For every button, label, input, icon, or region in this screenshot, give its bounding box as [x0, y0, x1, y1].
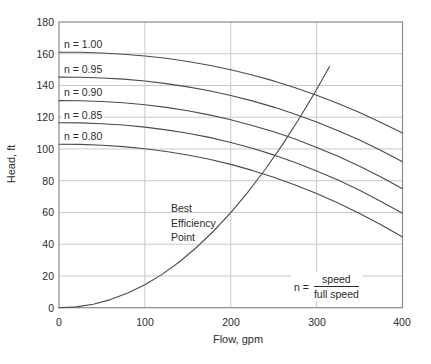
- x-tick-label: 400: [382, 315, 422, 329]
- bep-label-line-3: Point: [171, 230, 216, 245]
- annotation-fraction: speed full speed: [314, 273, 359, 300]
- y-tick-label: 160: [20, 47, 54, 61]
- x-tick-label: 300: [297, 315, 337, 329]
- y-tick-label: 180: [20, 15, 54, 29]
- y-tick-label: 100: [20, 142, 54, 156]
- y-tick-label: 40: [20, 237, 54, 251]
- bep-label-line-2: Efficiency: [171, 216, 216, 231]
- y-tick-label: 0: [20, 301, 54, 315]
- x-tick-label: 200: [211, 315, 251, 329]
- x-tick-label: 0: [39, 315, 79, 329]
- curve-label-n-0-90: n = 0.90: [62, 86, 104, 99]
- plot-area: [0, 0, 431, 364]
- curve-label-n-0-80: n = 0.80: [62, 130, 104, 143]
- bep-label-line-1: Best: [171, 201, 216, 216]
- best-efficiency-point-label: Best Efficiency Point: [171, 201, 216, 245]
- pump-affinity-curves-chart: 180 160 140 120 100 80 60 40 20 0 0 100 …: [0, 0, 431, 364]
- curve-label-n-1-00: n = 1.00: [62, 38, 104, 51]
- y-tick-label: 20: [20, 269, 54, 283]
- curve-label-n-0-85: n = 0.85: [62, 109, 104, 122]
- x-axis-title: Flow, gpm: [178, 333, 298, 345]
- y-tick-label: 60: [20, 205, 54, 219]
- y-tick-label: 80: [20, 174, 54, 188]
- fraction-numerator: speed: [314, 273, 359, 287]
- x-tick-label: 100: [125, 315, 165, 329]
- y-axis-title: Head, ft: [5, 145, 17, 184]
- y-tick-label: 140: [20, 78, 54, 92]
- fraction-denominator: full speed: [314, 287, 359, 300]
- annotation-lhs: n =: [294, 281, 309, 293]
- speed-ratio-annotation: n = speed full speed: [291, 272, 362, 301]
- curve-label-n-0-95: n = 0.95: [62, 63, 104, 76]
- y-tick-label: 120: [20, 110, 54, 124]
